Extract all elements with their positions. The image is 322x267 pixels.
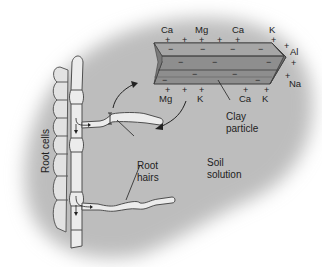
ion-bottom-mg: Mg <box>159 94 172 104</box>
ion-bottom-ca: Ca <box>239 94 251 104</box>
ion-bottom-k-1: K <box>197 94 203 104</box>
diagram-canvas: − − − − − − − − − − − Ca Mg Ca K + + + +… <box>0 0 322 267</box>
clay-particle-label-line2: particle <box>226 123 258 134</box>
clay-negative-charge: − <box>230 45 235 54</box>
plus-sign: + <box>235 36 240 45</box>
plus-sign: + <box>284 42 289 51</box>
ion-top-ca-2: Ca <box>232 25 244 35</box>
root-hairs-label-line1: Root <box>137 160 158 171</box>
clay-negative-charge: − <box>212 58 217 67</box>
clay-negative-charge: − <box>200 45 205 54</box>
root-hairs-label-line2: hairs <box>137 172 159 183</box>
clay-negative-charge: − <box>258 45 263 54</box>
plus-sign: + <box>291 59 296 68</box>
root-cells-label: Root cells <box>40 129 51 173</box>
plus-sign: + <box>165 36 170 45</box>
plus-sign: + <box>182 86 187 95</box>
clay-negative-charge: − <box>192 70 197 79</box>
ion-bottom-k-2: K <box>262 94 268 104</box>
soil-solution-label-line1: Soil <box>207 157 224 168</box>
clay-negative-charge: − <box>162 76 167 85</box>
ion-right-na: Na <box>289 79 301 89</box>
soil-solution-label-line2: solution <box>207 169 241 180</box>
clay-negative-charge: − <box>168 45 173 54</box>
clay-negative-charge: − <box>255 76 260 85</box>
ion-right-al: Al <box>290 47 298 57</box>
plus-sign: + <box>271 36 276 45</box>
ion-top-mg: Mg <box>195 25 208 35</box>
clay-negative-charge: − <box>178 58 183 67</box>
root-cells-back <box>53 67 68 232</box>
ion-top-k: K <box>269 25 275 35</box>
ion-top-ca-1: Ca <box>161 25 173 35</box>
plus-sign: + <box>182 36 187 45</box>
clay-particle-label-line1: Clay <box>226 111 246 122</box>
root-cells-front <box>70 56 84 248</box>
clay-negative-charge: − <box>266 58 271 67</box>
plus-sign: + <box>217 36 222 45</box>
plus-sign: + <box>199 36 204 45</box>
clay-negative-charge: − <box>232 70 237 79</box>
